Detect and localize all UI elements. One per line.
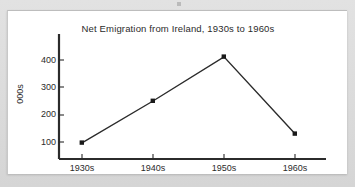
plot-area: 000s 400 300 200 100 1930s 1940s 1950s 1…: [8, 11, 348, 175]
image-artifact-speck: [177, 2, 181, 6]
data-point-1940s: [151, 99, 155, 103]
chart-panel: Net Emigration from Ireland, 1930s to 19…: [7, 10, 347, 174]
data-point-1960s: [293, 131, 297, 135]
data-point-1930s: [80, 140, 84, 144]
data-line-net-emigration: [82, 57, 295, 143]
screenshot-root: Net Emigration from Ireland, 1930s to 19…: [0, 0, 355, 187]
chart-svg: [8, 11, 348, 175]
data-point-1950s: [222, 54, 226, 58]
